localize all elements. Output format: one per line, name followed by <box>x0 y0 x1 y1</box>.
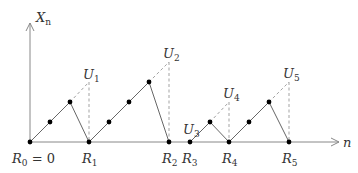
u-label-1: U1 <box>83 67 100 84</box>
y-axis-label: Xn <box>35 10 51 27</box>
r-label-1: R1 <box>81 151 98 168</box>
r-label-3: R3 <box>181 151 198 168</box>
r-label-2: R2 <box>161 151 178 168</box>
r-label-0: R0 = 0 <box>11 151 55 168</box>
u-label-4: U4 <box>223 86 240 103</box>
r-label-4: R4 <box>221 151 238 168</box>
x-axis-label: n <box>343 135 351 150</box>
u-label-3: U3 <box>183 122 200 139</box>
sample-path <box>30 82 289 142</box>
r-label-5: R5 <box>281 151 298 168</box>
u-label-5: U5 <box>283 66 300 83</box>
renewal-process-diagram: Xn n U1 U2 U3 U4 U5 R0 = 0 R1 R2 R3 R4 R… <box>0 0 358 173</box>
u-label-2: U2 <box>163 46 180 63</box>
dashed-projections <box>70 62 289 142</box>
